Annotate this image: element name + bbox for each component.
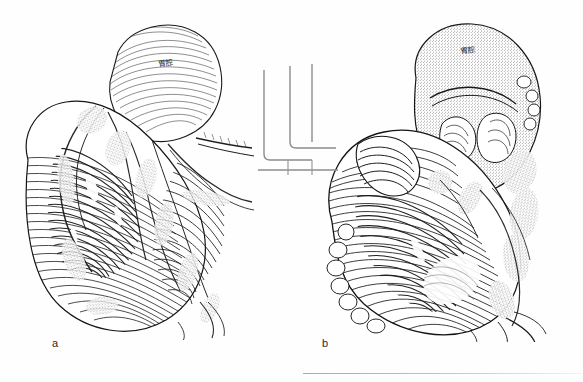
- figure-caption-a: a: [52, 338, 58, 349]
- figure-a: 胃腔: [0, 10, 265, 340]
- figure-b-drawing: [310, 12, 583, 342]
- figure-caption-b: b: [322, 338, 328, 349]
- bottom-rule-artifact: [303, 373, 583, 374]
- figure-a-drawing: [0, 10, 265, 340]
- anatomical-plate: 胃腔: [0, 0, 583, 382]
- ruler-lines-svg: [250, 60, 340, 175]
- figure-b: 胃腔: [310, 12, 583, 342]
- vascular-stalk-a: [196, 132, 254, 156]
